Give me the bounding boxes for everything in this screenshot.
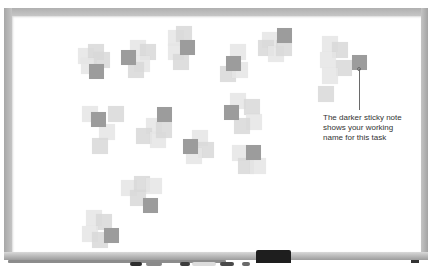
sticky-note-light bbox=[173, 54, 189, 70]
sticky-note-light bbox=[108, 106, 124, 122]
sticky-note-dark bbox=[157, 107, 172, 122]
marker-tray bbox=[4, 252, 428, 260]
marker bbox=[242, 262, 250, 266]
sticky-note-light bbox=[318, 86, 334, 102]
sticky-note-dark bbox=[89, 64, 104, 79]
sticky-note-light bbox=[322, 68, 338, 84]
whiteboard-scene: The darker sticky note shows your workin… bbox=[0, 0, 431, 271]
sticky-note-dark bbox=[143, 198, 158, 213]
sticky-note-dark bbox=[121, 50, 136, 65]
sticky-note-light bbox=[250, 158, 266, 174]
sticky-note-dark bbox=[180, 40, 195, 55]
sticky-note-light bbox=[92, 138, 108, 154]
sticky-note-dark bbox=[246, 145, 261, 160]
sticky-note-dark bbox=[183, 139, 198, 154]
marker bbox=[220, 262, 234, 266]
sticky-note-light bbox=[234, 118, 250, 134]
sticky-note-dark bbox=[226, 56, 241, 71]
sticky-note-light bbox=[336, 60, 352, 76]
marker bbox=[180, 262, 190, 266]
sticky-note-light bbox=[320, 52, 336, 68]
whiteboard-frame-left bbox=[4, 8, 12, 258]
sticky-note-light bbox=[244, 99, 260, 115]
sticky-note-dark bbox=[91, 112, 106, 127]
marker bbox=[130, 262, 142, 266]
eraser bbox=[256, 250, 291, 263]
sticky-note-dark bbox=[104, 228, 119, 243]
sticky-note-dark bbox=[224, 105, 239, 120]
whiteboard-frame-right bbox=[421, 8, 428, 258]
callout-pointer-line bbox=[359, 69, 360, 110]
sticky-note-light bbox=[146, 178, 162, 194]
marker bbox=[192, 262, 216, 266]
tray-end-mark bbox=[411, 260, 419, 263]
sticky-note-dark bbox=[277, 28, 292, 43]
sticky-note-light bbox=[156, 122, 172, 138]
whiteboard-frame-top bbox=[4, 8, 428, 16]
callout-annotation: The darker sticky note shows your workin… bbox=[323, 113, 413, 143]
marker bbox=[146, 262, 162, 266]
